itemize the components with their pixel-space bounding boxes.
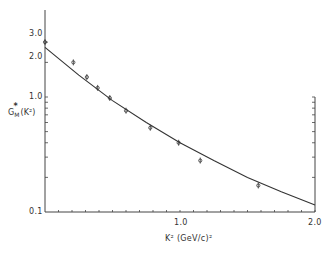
axes <box>45 10 315 212</box>
x-axis-label: K² (GeV/c)² <box>165 234 212 243</box>
y-tick-label-2: 2.0 <box>29 52 43 61</box>
fit-curve <box>45 47 315 205</box>
y-axis-label: GM*(K²) <box>8 104 35 118</box>
chart-plot <box>0 0 330 262</box>
y-axis-label-sub: M <box>14 111 19 118</box>
x-tick-label-1: 1.0 <box>174 218 188 227</box>
axis-ticks <box>45 42 315 212</box>
y-axis-label-sup: * <box>13 102 17 111</box>
data-points <box>43 39 260 188</box>
x-tick-label-2: 2.0 <box>308 218 322 227</box>
y-axis-label-arg: (K²) <box>21 108 36 117</box>
y-tick-label-3: 3.0 <box>29 29 43 38</box>
y-tick-label-01: 0.1 <box>29 207 43 216</box>
y-tick-label-1: 1.0 <box>29 92 43 101</box>
